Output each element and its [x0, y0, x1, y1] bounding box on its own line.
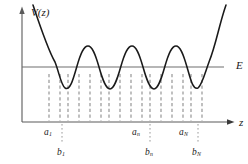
turning-point-label-bn: bn	[145, 148, 153, 158]
tp-sub-an: n	[137, 131, 140, 137]
x-axis	[22, 119, 235, 124]
tp-sub-a1: 1	[49, 131, 52, 137]
x-axis-label: z	[239, 117, 243, 128]
b-label-connectors	[62, 124, 198, 144]
energy-level-label: E	[236, 60, 243, 71]
x-axis-arrow-icon	[227, 119, 235, 124]
turning-point-label-b1: b1	[57, 148, 65, 158]
turning-point-label-aN: aN	[179, 128, 188, 138]
y-axis-arrow-icon	[19, 7, 24, 15]
potential-well-figure: V(z) E z a1 an aN b1 bn bN	[0, 0, 248, 164]
figure-canvas	[0, 0, 248, 164]
y-axis-label: V(z)	[31, 7, 49, 18]
turning-point-label-an: an	[132, 128, 140, 138]
tp-sub-bN: N	[197, 151, 201, 157]
tp-sub-bn: n	[150, 151, 153, 157]
turning-point-label-a1: a1	[44, 128, 52, 138]
potential-curve	[33, 5, 226, 89]
tp-sub-aN: N	[184, 131, 188, 137]
turning-point-label-bN: bN	[192, 148, 201, 158]
tp-sub-b1: 1	[62, 151, 65, 157]
y-axis	[19, 7, 24, 123]
